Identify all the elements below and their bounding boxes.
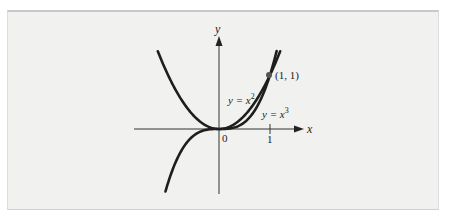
y-axis-arrow-icon — [216, 36, 223, 46]
y-axis-label: y — [214, 22, 221, 36]
point-label: (1, 1) — [275, 69, 299, 82]
x-axis-label: x — [306, 122, 313, 136]
plot-svg: x y 0 1 (1, 1) y = x2 y = x3 — [0, 0, 450, 221]
origin-label: 0 — [222, 132, 228, 144]
curve-x-cubed — [165, 51, 276, 191]
x-axis-arrow-icon — [294, 126, 304, 133]
series-label-x2: y = x2 — [227, 92, 255, 106]
x-tick-label-1: 1 — [267, 133, 273, 145]
point-marker — [266, 72, 272, 78]
series-label-x3: y = x3 — [261, 106, 289, 120]
